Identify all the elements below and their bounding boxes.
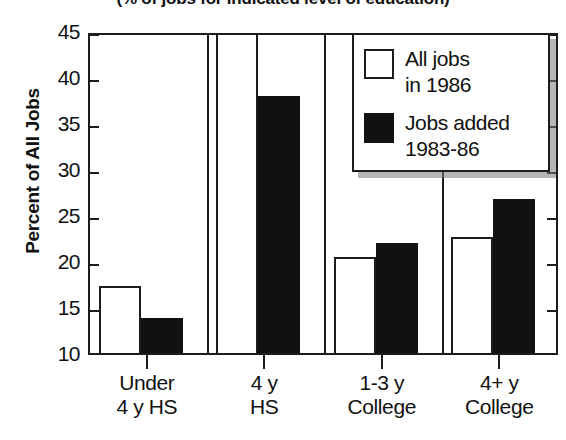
y-axis-tick-mark	[547, 218, 556, 220]
legend-label-line-2: 1983-86	[405, 136, 510, 162]
bar-solid-0	[141, 318, 183, 353]
x-axis-category-line: Under	[88, 371, 206, 395]
bar-solid-3	[493, 199, 535, 353]
bar-solid-1	[258, 96, 300, 353]
y-axis-tick-mark	[90, 80, 99, 82]
y-axis-tick-label: 20	[36, 250, 80, 274]
bar-chart-figure: (% of jobs for indicated level of educat…	[0, 0, 566, 440]
legend-label-line-2: in 1986	[405, 72, 471, 98]
legend-item-all-jobs-1986: All jobs in 1986	[364, 46, 471, 98]
group-separator	[207, 35, 209, 353]
y-axis-tick-mark	[547, 310, 556, 312]
y-axis-tick-label: 15	[36, 296, 80, 320]
x-axis-category-line: College	[441, 395, 559, 419]
y-axis-tick-label: 25	[36, 204, 80, 228]
x-axis-category-label: 4+ yCollege	[441, 371, 559, 419]
x-axis-category-line: HS	[206, 395, 324, 419]
bar-open-3	[451, 237, 493, 353]
y-axis-tick-mark	[90, 310, 99, 312]
y-axis-tick-mark	[90, 172, 99, 174]
x-axis-category-label: 1-3 yCollege	[323, 371, 441, 419]
chart-legend: All jobs in 1986 Jobs added 1983-86	[352, 33, 550, 172]
bar-solid-2	[376, 243, 418, 353]
y-axis-tick-label: 45	[36, 20, 80, 44]
y-axis-tick-label: 30	[36, 158, 80, 182]
legend-item-jobs-added-1983-86: Jobs added 1983-86	[364, 110, 510, 162]
y-axis-tick-mark	[547, 264, 556, 266]
y-axis-tick-mark	[90, 126, 99, 128]
legend-label-all-jobs-1986: All jobs in 1986	[405, 46, 471, 98]
y-axis-tick-label: 35	[36, 112, 80, 136]
legend-swatch-solid	[364, 113, 394, 143]
bar-open-1	[216, 33, 258, 353]
y-axis-tick-mark	[90, 34, 99, 36]
x-axis-category-line: 4 y	[206, 371, 324, 395]
y-axis-tick-mark	[547, 172, 556, 174]
x-axis-category-label: Under4 y HS	[88, 371, 206, 419]
y-axis-tick-mark	[90, 264, 99, 266]
x-axis-tick-mark	[146, 355, 148, 369]
bar-open-0	[99, 286, 141, 353]
x-axis-category-line: 4 y HS	[88, 395, 206, 419]
y-axis-tick-mark	[90, 218, 99, 220]
x-axis-category-line: 1-3 y	[323, 371, 441, 395]
legend-label-line-1: Jobs added	[405, 110, 510, 136]
legend-label-jobs-added-1983-86: Jobs added 1983-86	[405, 110, 510, 162]
y-axis-tick-label: 10	[36, 342, 80, 366]
x-axis-tick-mark	[498, 355, 500, 369]
x-axis-tick-mark	[263, 355, 265, 369]
legend-swatch-open	[364, 49, 394, 79]
x-axis-category-line: 4+ y	[441, 371, 559, 395]
x-axis-category-line: College	[323, 395, 441, 419]
x-axis-category-label: 4 yHS	[206, 371, 324, 419]
bar-open-2	[334, 257, 376, 353]
chart-title: (% of jobs for indicated level of educat…	[0, 0, 566, 9]
group-separator	[324, 35, 326, 353]
y-axis-tick-label: 40	[36, 66, 80, 90]
legend-label-line-1: All jobs	[405, 46, 471, 72]
x-axis-tick-mark	[381, 355, 383, 369]
